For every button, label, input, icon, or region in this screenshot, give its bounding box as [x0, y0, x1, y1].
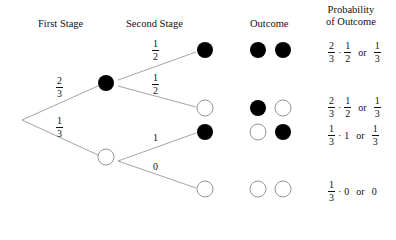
- node-stage2-c-black: [197, 124, 213, 140]
- label-stage2-b: 12: [152, 73, 159, 96]
- probability-row-1: 23 · 12 or 13: [328, 41, 381, 64]
- label-stage2-a: 12: [152, 39, 159, 62]
- node-stage2-a-black: [197, 42, 213, 58]
- outcome-2-ball-1: [250, 100, 266, 116]
- probability-row-4: 13 · 0 or 0: [328, 180, 377, 203]
- probability-row-2: 23 · 12 or 13: [328, 96, 381, 119]
- outcome-3-ball-1: [250, 124, 266, 140]
- outcome-1-ball-2: [275, 42, 291, 58]
- label-stage1-bottom: 13: [56, 116, 63, 139]
- node-stage2-d-white: [197, 181, 213, 197]
- outcome-1-ball-1: [250, 42, 266, 58]
- outcome-2-ball-2: [275, 100, 291, 116]
- node-stage1-black: [98, 75, 114, 91]
- outcome-4-ball-1: [250, 181, 266, 197]
- node-stage1-white: [98, 149, 114, 165]
- outcome-4-ball-2: [275, 181, 291, 197]
- label-stage1-top: 23: [56, 76, 63, 99]
- label-stage2-d: 0: [153, 162, 158, 172]
- node-stage2-b-white: [197, 100, 213, 116]
- outcome-3-ball-2: [275, 124, 291, 140]
- probability-row-3: 13 · 1 or 13: [328, 124, 379, 147]
- label-stage2-c: 1: [153, 133, 158, 143]
